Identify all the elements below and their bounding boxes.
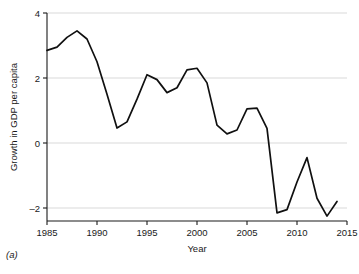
x-tick-label: 2015 bbox=[336, 227, 357, 238]
y-axis-ticks bbox=[43, 13, 47, 208]
x-tick-label: 2005 bbox=[236, 227, 257, 238]
gdp-growth-line-chart: 420–2 1985199019952000200520102015 Year … bbox=[0, 0, 359, 274]
x-tick-label: 1985 bbox=[36, 227, 57, 238]
y-tick-label: 4 bbox=[35, 8, 40, 19]
y-tick-label: 0 bbox=[35, 138, 40, 149]
x-tick-label: 1990 bbox=[86, 227, 107, 238]
x-tick-label: 2000 bbox=[186, 227, 207, 238]
x-tick-label: 2010 bbox=[286, 227, 307, 238]
y-axis-tick-labels: 420–2 bbox=[29, 8, 40, 214]
x-axis-title: Year bbox=[187, 243, 206, 254]
x-axis-ticks bbox=[47, 221, 347, 225]
y-tick-label: –2 bbox=[29, 203, 40, 214]
x-axis-tick-labels: 1985199019952000200520102015 bbox=[36, 227, 357, 238]
panel-caption: (a) bbox=[6, 249, 18, 260]
gridlines bbox=[47, 13, 347, 208]
x-axis: 1985199019952000200520102015 bbox=[36, 221, 357, 238]
y-axis-title: Growth in GDP per capita bbox=[8, 62, 19, 171]
data-series-line bbox=[47, 31, 337, 216]
x-tick-label: 1995 bbox=[136, 227, 157, 238]
y-tick-label: 2 bbox=[35, 73, 40, 84]
figure-panel: 420–2 1985199019952000200520102015 Year … bbox=[0, 0, 359, 274]
y-axis: 420–2 bbox=[29, 8, 47, 222]
